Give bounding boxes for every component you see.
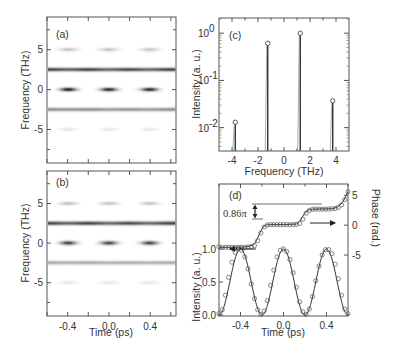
heat-cell <box>115 246 117 247</box>
heat-cell <box>76 265 78 266</box>
heat-cell <box>143 222 145 223</box>
heat-cell <box>161 66 163 67</box>
heat-cell <box>66 220 68 221</box>
heat-cell <box>151 226 153 227</box>
heat-cell <box>90 66 92 67</box>
heat-cell <box>104 67 106 68</box>
heat-cell <box>131 221 133 222</box>
heat-cell <box>78 88 80 89</box>
heat-cell <box>104 69 106 70</box>
heat-cell <box>147 51 149 52</box>
heat-cell <box>169 261 171 262</box>
heat-cell <box>110 89 112 90</box>
heat-cell <box>112 265 114 266</box>
heat-cell <box>143 67 145 68</box>
heat-cell <box>58 89 60 90</box>
heat-cell <box>133 110 135 111</box>
x-tick-label: 4 <box>333 155 339 166</box>
heat-cell <box>54 260 56 261</box>
heat-cell <box>143 282 145 283</box>
heat-cell <box>68 240 70 241</box>
heat-cell <box>112 280 114 281</box>
heat-cell <box>133 72 135 73</box>
heat-cell <box>80 90 82 91</box>
heat-cell <box>147 203 149 204</box>
heat-cell <box>157 71 159 72</box>
heat-cell <box>153 245 155 246</box>
heat-cell <box>141 240 143 241</box>
heat-cell <box>70 243 72 244</box>
heat-cell <box>100 111 102 112</box>
heat-cell <box>98 109 100 110</box>
heat-cell <box>106 221 108 222</box>
heat-cell <box>139 226 141 227</box>
heat-cell <box>123 69 125 70</box>
y-tick-label: -5 <box>34 124 43 135</box>
heat-cell <box>84 222 86 223</box>
heat-cell <box>145 261 147 262</box>
heat-cell <box>131 259 133 260</box>
y-tick-label: 5 <box>37 198 43 209</box>
heat-cell <box>131 223 133 224</box>
heat-cell <box>113 243 115 244</box>
heat-cell <box>76 241 78 242</box>
heat-cell <box>64 243 66 244</box>
heat-cell <box>106 68 108 69</box>
heat-cell <box>141 91 143 92</box>
heat-cell <box>155 280 157 281</box>
heat-cell <box>143 86 145 87</box>
heat-cell <box>64 280 66 281</box>
heat-cell <box>106 280 108 281</box>
heat-cell <box>54 48 56 49</box>
heat-cell <box>163 262 165 263</box>
heat-cell <box>127 222 129 223</box>
heat-cell <box>64 88 66 89</box>
heat-cell <box>66 69 68 70</box>
heat-cell <box>108 245 110 246</box>
heat-cell <box>117 72 119 73</box>
heat-cell <box>147 283 149 284</box>
heat-cell <box>64 128 66 129</box>
heat-cell <box>112 202 114 203</box>
heat-cell <box>149 201 151 202</box>
heat-cell <box>96 108 98 109</box>
heat-cell <box>62 110 64 111</box>
heat-cell <box>98 69 100 70</box>
heat-cell <box>60 128 62 129</box>
heat-cell <box>112 263 114 264</box>
heat-cell <box>74 226 76 227</box>
heat-cell <box>62 262 64 263</box>
heat-cell <box>94 66 96 67</box>
heat-cell <box>110 67 112 68</box>
heat-cell <box>94 109 96 110</box>
heat-cell <box>147 241 149 242</box>
heat-cell <box>72 280 74 281</box>
heat-cell <box>145 131 147 132</box>
heat-cell <box>117 223 119 224</box>
heat-cell <box>145 243 147 244</box>
heat-cell <box>161 263 163 264</box>
heat-cell <box>119 72 121 73</box>
heat-cell <box>70 246 72 247</box>
heat-cell <box>131 71 133 72</box>
heat-cell <box>52 68 54 69</box>
heat-cell <box>121 222 123 223</box>
heat-cell <box>88 259 90 260</box>
heat-cell <box>171 111 173 112</box>
heat-cell <box>90 259 92 260</box>
heat-cell <box>80 202 82 203</box>
heat-cell <box>119 67 121 68</box>
heat-cell <box>92 71 94 72</box>
heat-cell <box>165 260 167 261</box>
heat-cell <box>60 107 62 108</box>
heat-cell <box>155 222 157 223</box>
heat-cell <box>159 88 161 89</box>
heat-cell <box>86 110 88 111</box>
heat-cell <box>173 112 175 113</box>
heat-cell <box>169 220 171 221</box>
heat-cell <box>133 222 135 223</box>
heat-cell <box>54 70 56 71</box>
heat-cell <box>159 223 161 224</box>
heat-cell <box>110 282 112 283</box>
heat-cell <box>173 69 175 70</box>
